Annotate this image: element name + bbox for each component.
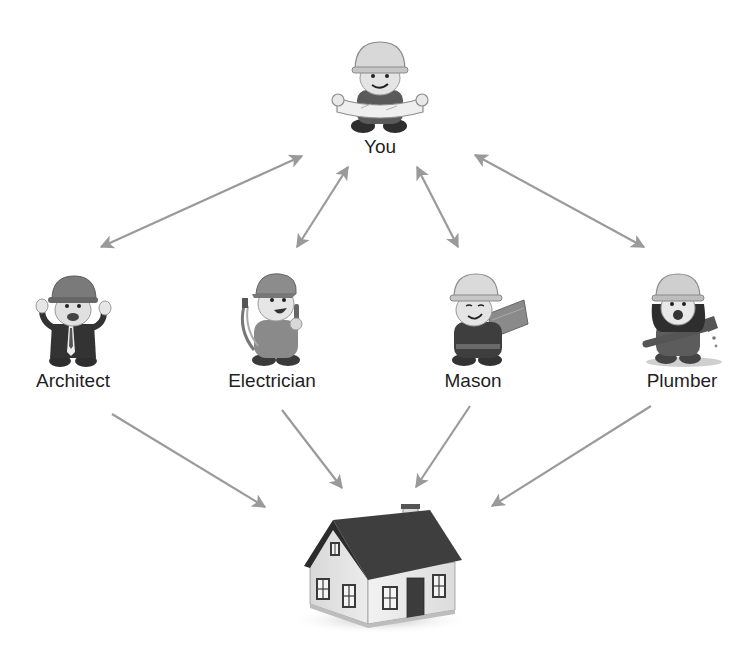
node-label-architect: Architect — [36, 370, 110, 392]
node-label-you: You — [364, 136, 396, 158]
plumber-worker-icon — [642, 270, 726, 368]
diagram-canvas: You Architect — [0, 0, 753, 667]
node-label-mason: Mason — [444, 370, 501, 392]
house-icon — [290, 500, 470, 632]
construction-worker-with-blueprint-icon — [331, 38, 429, 136]
arrow-mason-house — [416, 406, 470, 487]
arrow-electrician-house — [282, 410, 342, 488]
arrow-you-electrician — [297, 167, 348, 247]
arrow-architect-house — [112, 414, 265, 507]
arrow-you-plumber — [475, 155, 644, 247]
arrow-you-architect — [101, 156, 302, 247]
arrow-plumber-house — [492, 406, 651, 506]
mason-worker-icon — [444, 270, 532, 368]
node-label-plumber: Plumber — [647, 370, 718, 392]
electrician-worker-icon — [232, 270, 312, 368]
arrow-you-mason — [417, 167, 458, 247]
architect-worker-icon — [34, 272, 114, 368]
node-label-electrician: Electrician — [228, 370, 316, 392]
